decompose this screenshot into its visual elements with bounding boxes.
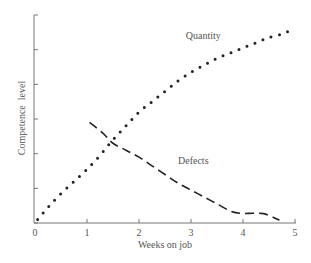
x-tick-label: 2 <box>137 227 142 238</box>
defects-label: Defects <box>178 155 209 166</box>
x-axis-label: Weeks on job <box>138 239 192 250</box>
y-axis-label: Competence level <box>16 81 27 156</box>
x-tick-label: 5 <box>293 227 298 238</box>
x-tick-label: 3 <box>189 227 194 238</box>
series-layer: QuantityDefects <box>38 30 290 220</box>
quantity-label: Quantity <box>186 30 221 41</box>
x-ticks: 012345 <box>33 219 298 238</box>
series-defects: Defects <box>90 122 280 220</box>
series-quantity: Quantity <box>38 30 290 219</box>
competence-chart: 012345 Weeks on job Competence level Qua… <box>0 0 311 263</box>
x-tick-label: 1 <box>85 227 90 238</box>
axes: 012345 <box>33 15 298 238</box>
x-tick-label: 4 <box>241 227 246 238</box>
defects-line <box>90 122 280 220</box>
quantity-line <box>38 31 290 220</box>
y-ticks <box>34 15 38 223</box>
x-tick-label: 0 <box>33 227 38 238</box>
